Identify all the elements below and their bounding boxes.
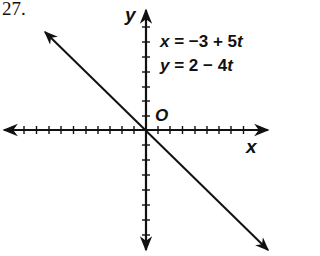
equation-x: x = −3 + 5t bbox=[160, 32, 243, 52]
equation-x-var: x bbox=[160, 32, 169, 51]
y-axis-label: y bbox=[125, 4, 136, 26]
equation-y-rhs: = 2 − 4 bbox=[174, 56, 227, 75]
equation-x-rhs: = −3 + 5 bbox=[174, 32, 237, 51]
parametric-line bbox=[45, 32, 268, 250]
x-axis-label: x bbox=[246, 136, 257, 158]
equation-y-param: t bbox=[227, 56, 233, 75]
equation-y-var: y bbox=[160, 56, 169, 75]
equation-y: y = 2 − 4t bbox=[160, 56, 233, 76]
origin-label: O bbox=[155, 106, 168, 126]
equation-x-param: t bbox=[237, 32, 243, 51]
